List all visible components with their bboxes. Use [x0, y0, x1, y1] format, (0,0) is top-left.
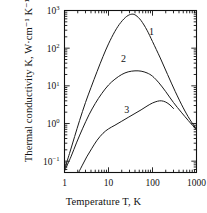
figure: 110100100010−1100101102103123 Thermal co… — [0, 0, 207, 213]
curve-2 — [65, 71, 197, 171]
x-axis-label-text: Temperature T, K — [66, 196, 141, 207]
plot-frame — [65, 11, 197, 173]
x-tick-label: 100 — [145, 178, 160, 188]
curve-label-1: 1 — [149, 26, 154, 37]
y-tick-label: 102 — [47, 42, 60, 54]
curve-1 — [65, 14, 197, 169]
y-tick-label: 10−1 — [43, 155, 60, 167]
y-tick-label: 103 — [47, 4, 61, 16]
y-tick-label: 100 — [47, 117, 61, 129]
y-axis-label-text: Thermal conductivity K, W·cm⁻¹ K⁻¹ — [23, 0, 34, 162]
x-tick-label: 1 — [62, 178, 67, 188]
y-axis-label: Thermal conductivity K, W·cm⁻¹ K⁻¹ — [23, 22, 35, 162]
y-tick-label: 101 — [47, 80, 60, 92]
curve-label-3: 3 — [124, 104, 129, 115]
x-axis-label: Temperature T, K — [0, 196, 207, 208]
x-tick-label: 1000 — [187, 178, 206, 188]
x-tick-label: 10 — [104, 178, 114, 188]
curve-label-2: 2 — [121, 53, 126, 64]
